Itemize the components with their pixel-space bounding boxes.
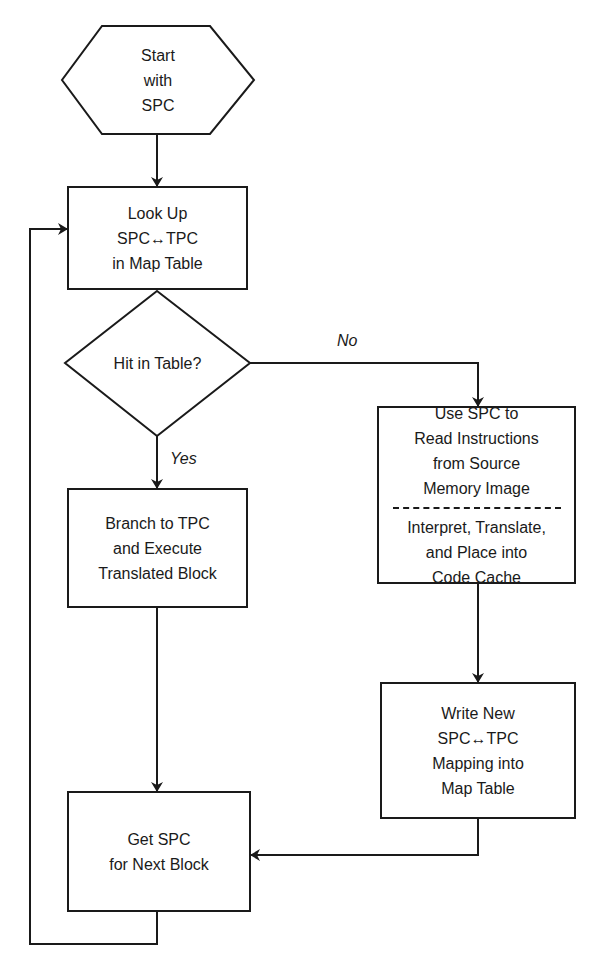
edge-write-to-next <box>251 818 478 855</box>
translate-top-line-2: Read Instructions <box>414 426 539 451</box>
translate-bottom-line-3: Code Cache <box>432 565 521 590</box>
translate-bottom-line-1: Interpret, Translate, <box>407 515 546 540</box>
lookup-line-1: Look Up <box>128 201 188 226</box>
start-line-3: SPC <box>142 93 175 118</box>
next-block-line-1: Get SPC <box>127 827 190 852</box>
write-map-line-1: Write New <box>441 701 515 726</box>
start-line-2: with <box>144 68 172 93</box>
lookup-line-2: SPC↔TPC <box>117 226 198 251</box>
yes-label: Yes <box>170 450 197 468</box>
decision-node: Hit in Table? <box>65 291 250 436</box>
branch-line-2: and Execute <box>113 536 202 561</box>
write-map-line-4: Map Table <box>441 776 515 801</box>
start-node: Start with SPC <box>62 26 254 134</box>
dashed-divider <box>393 507 561 509</box>
decision-label: Hit in Table? <box>114 351 202 376</box>
next-block-node: Get SPC for Next Block <box>68 792 250 911</box>
start-line-1: Start <box>141 43 175 68</box>
write-map-node: Write New SPC↔TPC Mapping into Map Table <box>381 683 575 818</box>
branch-node: Branch to TPC and Execute Translated Blo… <box>68 489 247 607</box>
translate-top-line-4: Memory Image <box>423 476 530 501</box>
no-label: No <box>337 332 357 350</box>
lookup-node: Look Up SPC↔TPC in Map Table <box>68 187 247 289</box>
next-block-line-2: for Next Block <box>109 852 209 877</box>
lookup-line-3: in Map Table <box>112 251 202 276</box>
translate-top-line-3: from Source <box>433 451 520 476</box>
translate-node: Use SPC to Read Instructions from Source… <box>378 407 575 583</box>
translate-bottom-line-2: and Place into <box>426 540 527 565</box>
translate-top-line-1: Use SPC to <box>435 401 519 426</box>
branch-line-1: Branch to TPC <box>105 511 210 536</box>
branch-line-3: Translated Block <box>98 561 217 586</box>
write-map-line-2: SPC↔TPC <box>438 726 519 751</box>
write-map-line-3: Mapping into <box>432 751 524 776</box>
